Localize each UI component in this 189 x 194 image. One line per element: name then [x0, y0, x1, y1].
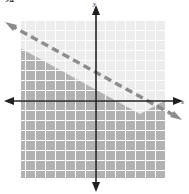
inequality-graph-figure: 24. — [0, 0, 189, 194]
figure-number-label: 24. — [5, 0, 16, 2]
x-axis-label: x — [181, 99, 184, 106]
y-axis-label: y — [93, 1, 96, 8]
coordinate-plane-svg — [0, 0, 189, 194]
